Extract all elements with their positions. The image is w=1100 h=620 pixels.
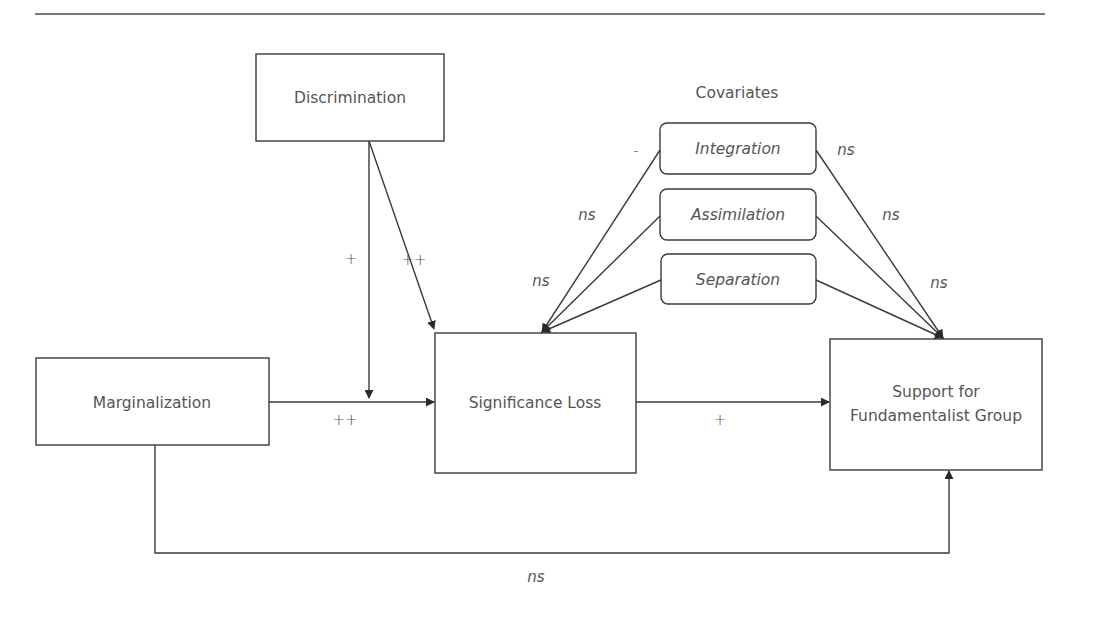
label-integration-to-significance: -: [633, 142, 638, 160]
node-discrimination: Discrimination: [256, 54, 444, 141]
label-marginalization-to-significance: ++: [332, 411, 357, 429]
node-integration-label: Integration: [695, 140, 780, 158]
label-assimilation-to-significance: ns: [578, 206, 596, 224]
label-discrimination-to-significance: ++: [401, 251, 426, 269]
node-assimilation-label: Assimilation: [690, 206, 785, 224]
label-assimilation-to-support: ns: [882, 206, 900, 224]
node-integration: Integration: [660, 123, 816, 174]
node-assimilation: Assimilation: [660, 189, 816, 240]
node-separation: Separation: [661, 254, 816, 304]
node-significance-loss: Significance Loss: [435, 333, 636, 473]
covariates-title: Covariates: [696, 84, 779, 102]
node-support-label-line1: Support for: [892, 383, 980, 401]
edge-integration-to-significance: [542, 150, 660, 332]
node-support-label-line2: Fundamentalist Group: [850, 407, 1022, 425]
node-marginalization: Marginalization: [36, 358, 269, 445]
edge-assimilation-to-significance: [542, 216, 660, 332]
node-marginalization-label: Marginalization: [93, 394, 211, 412]
node-support: Support for Fundamentalist Group: [830, 339, 1042, 470]
label-separation-to-significance: ns: [532, 272, 550, 290]
edge-integration-to-support: [816, 150, 943, 338]
edge-assimilation-to-support: [816, 216, 943, 338]
label-integration-to-support: ns: [837, 141, 855, 159]
label-separation-to-support: ns: [930, 274, 948, 292]
node-separation-label: Separation: [696, 271, 780, 289]
path-model-diagram: Discrimination Marginalization Significa…: [0, 0, 1100, 620]
label-marginalization-to-support: ns: [527, 568, 545, 586]
edge-separation-to-significance: [542, 280, 661, 332]
label-discrimination-moderation: +: [345, 250, 358, 268]
node-significance-loss-label: Significance Loss: [469, 394, 602, 412]
node-discrimination-label: Discrimination: [294, 89, 406, 107]
edge-discrimination-to-significance: [369, 141, 434, 329]
label-significance-to-support: +: [714, 411, 727, 429]
